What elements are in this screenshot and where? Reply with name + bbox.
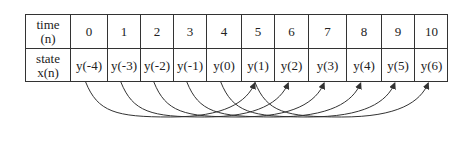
arrow-y(-4)-to-y(1) xyxy=(86,82,255,117)
arrow-y(-2)-to-y(3) xyxy=(154,82,324,117)
arrow-y(-3)-to-y(2) xyxy=(121,82,288,117)
arrow-y(-1)-to-y(4) xyxy=(187,82,361,117)
transition-arrows xyxy=(0,0,468,167)
arrow-y(0)-to-y(5) xyxy=(221,82,395,117)
arrow-y(1)-to-y(6) xyxy=(255,82,428,117)
